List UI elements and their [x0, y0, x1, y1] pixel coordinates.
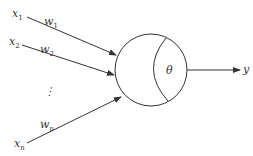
output-label: y: [242, 63, 250, 76]
input-label-n: xn: [14, 137, 25, 152]
weight-label-n: wn: [40, 118, 54, 133]
input-arrow-2: [22, 45, 114, 75]
diagram-svg: x1 w1 x2 w2 ⋮ wn xn θ y: [0, 0, 253, 156]
ellipsis: ⋮: [44, 85, 55, 98]
neuron-circle: [115, 34, 187, 106]
input-label-2: x2: [9, 35, 20, 50]
neuron-diagram: x1 w1 x2 w2 ⋮ wn xn θ y: [0, 0, 253, 156]
weight-label-2: w2: [40, 43, 54, 58]
weight-label-1: w1: [44, 15, 58, 30]
threshold-label: θ: [166, 64, 173, 77]
input-label-1: x1: [12, 7, 23, 22]
